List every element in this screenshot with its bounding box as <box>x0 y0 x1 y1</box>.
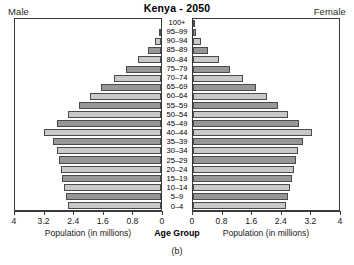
page-title: Kenya - 2050 <box>0 2 354 14</box>
bar-row <box>193 65 339 74</box>
age-group-label-45-49: 45–49 <box>162 119 192 128</box>
male-bar-20-24 <box>61 166 161 173</box>
female-bar-10-14 <box>193 184 290 191</box>
age-group-label-50-54: 50–54 <box>162 110 192 119</box>
bar-row <box>15 55 161 64</box>
female-bar-90-94 <box>193 38 201 45</box>
axis-tick-label: 0 <box>160 216 165 226</box>
female-bar-75-79 <box>193 66 230 73</box>
bar-row <box>15 19 161 28</box>
bar-row <box>193 201 339 210</box>
male-bar-70-74 <box>114 75 161 82</box>
female-bar-30-34 <box>193 147 298 154</box>
bar-row <box>15 46 161 55</box>
male-bar-40-44 <box>44 129 161 136</box>
female-side-label: Female <box>314 6 346 17</box>
axis-tick-label: 0.8 <box>126 216 138 226</box>
bar-row <box>15 37 161 46</box>
bar-row <box>193 137 339 146</box>
male-plot-panel <box>14 18 162 211</box>
axis-tick <box>251 211 252 215</box>
male-axis-caption: Population (in millions) <box>14 228 162 238</box>
age-group-label-15-19: 15–19 <box>162 174 192 183</box>
bar-row <box>15 128 161 137</box>
male-bar-65-69 <box>101 84 161 91</box>
female-plot-panel <box>192 18 340 211</box>
bar-row <box>193 165 339 174</box>
axis-tick-label: 3.2 <box>304 216 316 226</box>
axis-tick-label: 4 <box>12 216 17 226</box>
axis-tick <box>222 211 223 215</box>
age-group-label-90-94: 90–94 <box>162 36 192 45</box>
female-bar-15-19 <box>193 175 292 182</box>
bar-row <box>193 183 339 192</box>
male-x-axis: 43.22.41.60.80 <box>14 211 162 227</box>
female-bar-0-4 <box>193 202 286 209</box>
axis-tick-label: 0 <box>190 216 195 226</box>
male-bar-30-34 <box>57 147 161 154</box>
female-bar-60-64 <box>193 93 267 100</box>
age-group-label-95-99: 95–99 <box>162 27 192 36</box>
age-group-label-55-59: 55–59 <box>162 101 192 110</box>
axis-tick <box>281 211 282 215</box>
male-bar-85-89 <box>148 47 161 54</box>
female-bar-5-9 <box>193 193 288 200</box>
male-bar-55-59 <box>79 102 161 109</box>
age-group-label-40-44: 40–44 <box>162 128 192 137</box>
age-group-label-65-69: 65–69 <box>162 82 192 91</box>
axis-tick-label: 2.4 <box>67 216 79 226</box>
bar-row <box>193 146 339 155</box>
female-bar-80-84 <box>193 56 219 63</box>
age-group-label-70-74: 70–74 <box>162 73 192 82</box>
bar-row <box>193 119 339 128</box>
bar-row <box>193 83 339 92</box>
axis-tick <box>340 211 341 215</box>
bar-row <box>15 110 161 119</box>
bar-row <box>193 55 339 64</box>
age-group-label-0-4: 0–4 <box>162 202 192 211</box>
bar-row <box>15 146 161 155</box>
axis-tick-label: 3.2 <box>38 216 50 226</box>
bar-row <box>193 128 339 137</box>
axis-tick <box>192 211 193 215</box>
bar-row <box>15 65 161 74</box>
bar-row <box>15 83 161 92</box>
bar-row <box>15 174 161 183</box>
bar-row <box>193 74 339 83</box>
female-bar-rows <box>193 19 339 210</box>
age-group-label-25-29: 25–29 <box>162 156 192 165</box>
female-bar-55-59 <box>193 102 278 109</box>
bar-row <box>15 183 161 192</box>
population-pyramid-figure: Kenya - 2050 Male Female 0–45–910–1415–1… <box>0 0 354 265</box>
female-bar-85-89 <box>193 47 208 54</box>
male-bar-25-29 <box>59 156 161 163</box>
male-bar-10-14 <box>64 184 161 191</box>
male-bar-35-39 <box>53 138 161 145</box>
age-group-label-75-79: 75–79 <box>162 64 192 73</box>
bar-row <box>15 137 161 146</box>
bar-row <box>15 92 161 101</box>
female-bar-70-74 <box>193 75 243 82</box>
axis-tick <box>44 211 45 215</box>
female-x-axis: 00.81.62.43.24 <box>192 211 340 227</box>
male-bar-50-54 <box>68 111 161 118</box>
female-bar-45-49 <box>193 120 299 127</box>
female-axis-caption: Population (in millions) <box>192 228 340 238</box>
bar-row <box>193 174 339 183</box>
bar-row <box>193 192 339 201</box>
axis-tick-label: 4 <box>338 216 343 226</box>
age-group-label-30-34: 30–34 <box>162 147 192 156</box>
male-axis-line <box>14 211 162 212</box>
age-group-label-5-9: 5–9 <box>162 193 192 202</box>
age-group-label-85-89: 85–89 <box>162 46 192 55</box>
bar-row <box>193 28 339 37</box>
female-bar-100+ <box>193 20 195 27</box>
female-bar-20-24 <box>193 166 294 173</box>
axis-tick-label: 1.6 <box>245 216 257 226</box>
bar-row <box>15 155 161 164</box>
axis-tick <box>310 211 311 215</box>
age-group-axis: 0–45–910–1415–1920–2425–2930–3435–3940–4… <box>162 18 192 211</box>
age-group-label-20-24: 20–24 <box>162 165 192 174</box>
age-group-label-80-84: 80–84 <box>162 55 192 64</box>
male-bar-15-19 <box>62 175 161 182</box>
